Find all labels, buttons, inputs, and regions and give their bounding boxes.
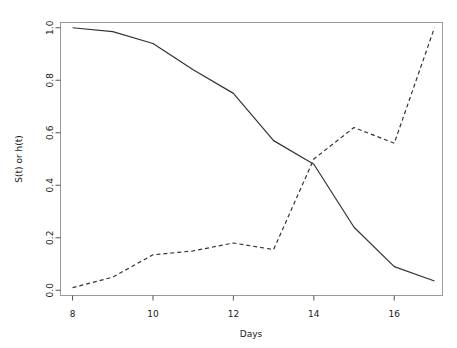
chart-figure: 0.00.20.40.60.81.0 810121416 Days S(t) o…	[0, 0, 457, 348]
y-axis-tick-label: 0.0	[45, 283, 55, 298]
x-axis-tick-label: 10	[147, 309, 159, 319]
x-axis-title: Days	[240, 329, 263, 339]
y-axis-tick-label: 0.4	[45, 178, 55, 193]
x-axis-tick-label: 14	[308, 309, 320, 319]
x-axis-tick-label: 16	[389, 309, 401, 319]
y-axis-tick-label: 0.6	[45, 125, 55, 140]
plot-canvas: 0.00.20.40.60.81.0 810121416 Days S(t) o…	[0, 0, 457, 348]
y-axis-tick-label: 0.2	[45, 231, 55, 245]
y-axis-tick-label: 0.8	[45, 73, 55, 88]
x-axis-tick-label: 12	[228, 309, 239, 319]
y-axis-title: S(t) or h(t)	[14, 135, 24, 182]
x-axis-tick-label: 8	[70, 309, 76, 319]
y-axis-tick-label: 1.0	[45, 20, 55, 35]
